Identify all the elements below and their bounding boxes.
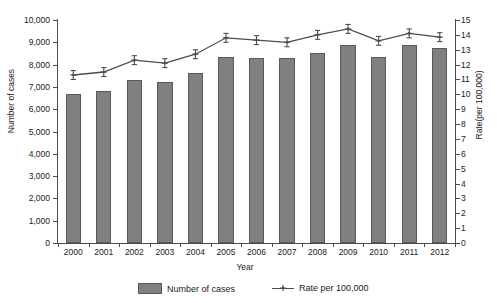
x-axis-tick xyxy=(119,243,120,247)
y2-axis-tick-label: 1 xyxy=(461,224,485,233)
y2-axis-tick xyxy=(456,243,460,244)
bar xyxy=(310,53,325,243)
data-point-with-error-bar xyxy=(375,36,381,45)
y-axis-tick xyxy=(53,198,57,199)
y2-axis-tick xyxy=(456,20,460,21)
x-axis-tick xyxy=(333,243,334,247)
y2-axis-tick xyxy=(456,50,460,51)
y2-axis-tick xyxy=(456,65,460,66)
data-point-with-error-bar xyxy=(284,38,290,47)
x-axis-tick xyxy=(363,243,364,247)
bar xyxy=(371,57,386,243)
y-axis-tick-label: 10,000 xyxy=(0,16,50,25)
bar xyxy=(127,80,142,243)
y2-axis-tick xyxy=(456,154,460,155)
y2-axis-tick xyxy=(456,213,460,214)
y2-axis-tick xyxy=(456,198,460,199)
y2-axis-tick-label: 15 xyxy=(461,16,485,25)
y2-axis-tick xyxy=(456,139,460,140)
x-axis-tick xyxy=(89,243,90,247)
y-axis-tick xyxy=(53,87,57,88)
y-axis-tick xyxy=(53,20,57,21)
y-axis-tick xyxy=(53,154,57,155)
data-point-with-error-bar xyxy=(406,29,412,38)
x-axis-tick xyxy=(211,243,212,247)
data-point-with-error-bar xyxy=(162,59,168,68)
legend-bar-label: Number of cases xyxy=(167,284,235,294)
legend-bar-swatch xyxy=(138,283,162,294)
y2-axis-tick xyxy=(456,228,460,229)
x-axis-tick xyxy=(180,243,181,247)
data-point-with-error-bar xyxy=(131,56,137,65)
y-axis-tick-label: 0 xyxy=(0,239,50,248)
data-point-with-error-bar xyxy=(192,50,198,59)
bar xyxy=(402,45,417,243)
y-axis-tick-label: 3,000 xyxy=(0,172,50,181)
legend-line-swatch xyxy=(272,284,294,293)
y-axis-tick-label: 1,000 xyxy=(0,217,50,226)
y2-axis-tick-label: 0 xyxy=(461,239,485,248)
y2-axis-tick xyxy=(456,124,460,125)
y-axis-tick-label: 2,000 xyxy=(0,194,50,203)
data-point-with-error-bar xyxy=(437,33,443,42)
y2-axis-tick xyxy=(456,79,460,80)
bar xyxy=(249,58,264,243)
y-axis-tick xyxy=(53,65,57,66)
legend-line-label: Rate per 100,000 xyxy=(299,283,369,293)
bar xyxy=(157,82,172,243)
y-axis-tick xyxy=(53,243,57,244)
data-point-with-error-bar xyxy=(70,71,76,80)
x-axis-tick-label: 2012 xyxy=(420,247,460,257)
y2-axis-line xyxy=(455,19,456,244)
y2-axis-tick-label: 5 xyxy=(461,165,485,174)
x-axis-tick xyxy=(302,243,303,247)
y2-axis-title: Rate(per 100,000) xyxy=(474,50,484,160)
data-point-with-error-bar xyxy=(101,68,107,77)
y2-axis-tick xyxy=(456,109,460,110)
legend-item-number-of-cases: Number of cases xyxy=(138,283,235,294)
y2-axis-tick xyxy=(456,35,460,36)
data-point-with-error-bar xyxy=(314,30,320,39)
bar xyxy=(96,91,111,243)
bar xyxy=(432,48,447,243)
y2-axis-tick-label: 4 xyxy=(461,180,485,189)
bar xyxy=(279,58,294,243)
data-point-with-error-bar xyxy=(223,33,229,42)
data-point-with-error-bar xyxy=(345,24,351,33)
y-axis-tick xyxy=(53,132,57,133)
y2-axis-tick-label: 3 xyxy=(461,194,485,203)
bar xyxy=(340,45,355,243)
legend-item-rate-per-100000: Rate per 100,000 xyxy=(272,283,369,293)
x-axis-tick xyxy=(150,243,151,247)
data-point-with-error-bar xyxy=(253,36,259,45)
x-axis-title: Year xyxy=(205,262,285,272)
bar xyxy=(218,57,233,243)
x-axis-tick xyxy=(455,243,456,247)
y-axis-tick xyxy=(53,109,57,110)
x-axis-tick xyxy=(394,243,395,247)
y2-axis-tick xyxy=(456,94,460,95)
x-axis-line xyxy=(57,243,456,244)
bar xyxy=(188,73,203,243)
x-axis-tick xyxy=(58,243,59,247)
x-axis-tick xyxy=(241,243,242,247)
y2-axis-tick-label: 2 xyxy=(461,209,485,218)
y-axis-tick xyxy=(53,221,57,222)
x-axis-tick xyxy=(272,243,273,247)
y-axis-line xyxy=(57,19,58,244)
y2-axis-tick xyxy=(456,169,460,170)
y2-axis-tick-label: 14 xyxy=(461,31,485,40)
chart-container: 01,0002,0003,0004,0005,0006,0007,0008,00… xyxy=(0,0,497,303)
y-axis-tick xyxy=(53,42,57,43)
bar xyxy=(66,94,81,243)
y2-axis-tick xyxy=(456,184,460,185)
y-axis-tick xyxy=(53,176,57,177)
x-axis-tick xyxy=(424,243,425,247)
y-axis-title: Number of cases xyxy=(6,46,16,156)
